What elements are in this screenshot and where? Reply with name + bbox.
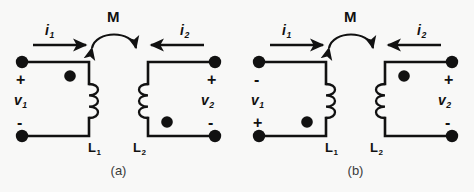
coupling-dot-l2-b: [398, 70, 410, 82]
inductor-label-l2-a: L2: [133, 141, 145, 154]
figure-canvas: M i1 i2 + v1 - + v2 - L1 L2 (a): [0, 0, 474, 192]
inductor-l2-coil-a: [139, 84, 148, 118]
inductor-l1-coil-a: [89, 84, 98, 118]
polarity-sign-left-bottom-a: -: [17, 115, 22, 131]
current-label-i2-a: i2: [180, 23, 189, 37]
polarity-sign-right-top-a: +: [207, 72, 216, 88]
panel-caption-b: (b): [237, 163, 474, 178]
inductor-l1-coil-b: [326, 84, 335, 118]
mutual-inductance-label-b: M: [344, 9, 357, 24]
circuit-panel-a: M i1 i2 + v1 - + v2 - L1 L2 (a): [0, 0, 237, 192]
terminal-node-right-bottom-b: [446, 130, 458, 142]
polarity-sign-right-bottom-a: -: [208, 115, 213, 131]
mutual-coupling-arc-a: [92, 35, 136, 49]
terminal-node-right-bottom-a: [209, 130, 221, 142]
terminal-node-left-bottom-b: [253, 130, 265, 142]
polarity-sign-right-top-b: +: [444, 72, 453, 88]
terminal-node-left-bottom-a: [16, 130, 28, 142]
mutual-inductance-label-a: M: [107, 9, 120, 24]
left-loop-wires-a: [22, 62, 89, 136]
current-label-i2-b: i2: [417, 23, 426, 37]
voltage-label-v1-a: v1: [14, 93, 27, 107]
inductor-label-l2-b: L2: [370, 141, 382, 154]
terminal-node-right-top-a: [209, 56, 221, 68]
polarity-sign-right-bottom-b: -: [445, 115, 450, 131]
current-label-i1-b: i1: [282, 23, 291, 37]
circuit-panel-b: M i1 i2 - v1 + + v2 - L1 L2 (b): [237, 0, 474, 192]
inductor-label-l1-b: L1: [325, 141, 337, 154]
polarity-sign-left-top-a: +: [16, 72, 25, 88]
left-loop-wires-b: [259, 62, 326, 136]
mutual-coupling-arc-b: [329, 35, 373, 49]
polarity-sign-left-top-b: -: [254, 72, 259, 88]
panel-caption-a: (a): [0, 163, 237, 178]
voltage-label-v1-b: v1: [251, 93, 264, 107]
voltage-label-v2-b: v2: [438, 93, 451, 107]
terminal-node-left-top-a: [16, 56, 28, 68]
inductor-label-l1-a: L1: [88, 141, 100, 154]
polarity-sign-left-bottom-b: +: [253, 115, 262, 131]
coupling-dot-l2-a: [161, 116, 173, 128]
inductor-l2-coil-b: [376, 84, 385, 118]
coupling-dot-l1-b: [301, 116, 313, 128]
terminal-node-left-top-b: [253, 56, 265, 68]
coupling-dot-l1-a: [64, 70, 76, 82]
voltage-label-v2-a: v2: [201, 93, 214, 107]
terminal-node-right-top-b: [446, 56, 458, 68]
current-label-i1-a: i1: [45, 23, 54, 37]
